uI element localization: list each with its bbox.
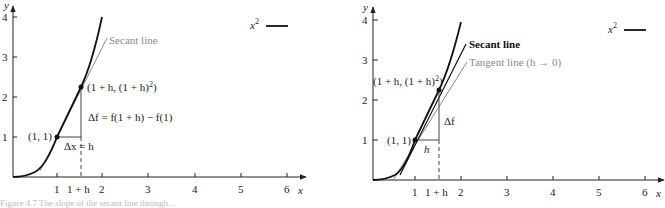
right-point-b-label: (1 + h, (1 + h)2): [373, 74, 443, 88]
right-y-tick-2: 2: [362, 94, 368, 106]
left-y-ticks: [13, 17, 17, 137]
right-x-tick-2: 2: [458, 186, 464, 198]
right-x-tick-1: 1: [412, 186, 418, 198]
left-y-tick-1: 1: [2, 131, 8, 143]
left-point-1h: [79, 85, 84, 90]
right-y-axis-label: y: [362, 1, 368, 13]
left-y-tick-3: 3: [2, 51, 8, 63]
left-y-tick-2: 2: [2, 91, 8, 103]
right-point-a-label: (1, 1): [387, 134, 411, 147]
left-x-ticks: [57, 173, 287, 177]
right-h-label: h: [424, 143, 430, 155]
right-y-tick-4: 4: [362, 14, 368, 26]
right-secant-label: Secant line: [469, 38, 520, 50]
left-x-tick-4: 4: [192, 183, 198, 195]
left-x-tick-2: 2: [99, 183, 105, 195]
left-curve-x-squared: [13, 17, 102, 177]
right-legend-label: x2: [607, 21, 617, 35]
right-x-axis-label: x: [655, 187, 661, 199]
left-point-b-label: (1 + h, (1 + h)2): [87, 80, 157, 94]
right-x-tick-3: 3: [504, 186, 510, 198]
right-y-tick-1: 1: [362, 134, 368, 146]
right-plot: y x 1 2 3 4 1 1 + h 2 3 4 5 6: [362, 1, 664, 199]
right-y-tick-3: 3: [362, 54, 368, 66]
left-y-axis-label: y: [3, 0, 9, 11]
left-x-tick-6: 6: [284, 183, 290, 195]
left-delta-x-label: Δx = h: [64, 140, 94, 152]
left-x-tick-5: 5: [238, 183, 244, 195]
left-x-tick-3: 3: [145, 183, 151, 195]
left-plot: y x 1 2 3 4 1 1 + h 2 3 4 5 6: [2, 0, 306, 196]
right-point-1-1: [413, 138, 418, 143]
left-secant-label: Secant line: [109, 34, 158, 46]
right-tangent-label: Tangent line (h → 0): [469, 56, 561, 69]
right-legend: x2: [607, 21, 646, 35]
left-x-axis-label: x: [297, 184, 303, 196]
figure-canvas: y x 1 2 3 4 1 1 + h 2 3 4 5 6: [0, 0, 665, 208]
right-delta-f-label: Δf: [444, 115, 455, 127]
right-curve-x-squared: [373, 22, 461, 180]
left-legend: x2: [249, 17, 288, 31]
left-x-tick-1h: 1 + h: [67, 183, 90, 195]
right-x-ticks: [415, 176, 645, 180]
figure-caption: Figure 4.7 The slope of the secant line …: [0, 198, 175, 208]
left-point-1-1: [55, 135, 60, 140]
right-x-tick-4: 4: [550, 186, 556, 198]
left-point-a-label: (1, 1): [28, 130, 52, 143]
right-point-1h: [437, 88, 442, 93]
left-delta-f-label: Δf = f(1 + h) − f(1): [88, 111, 173, 124]
left-y-tick-4: 4: [2, 11, 8, 23]
right-x-tick-1h: 1 + h: [425, 186, 448, 198]
right-x-tick-6: 6: [642, 186, 648, 198]
left-x-tick-1: 1: [54, 183, 60, 195]
left-legend-label: x2: [249, 17, 259, 31]
right-x-tick-5: 5: [596, 186, 602, 198]
